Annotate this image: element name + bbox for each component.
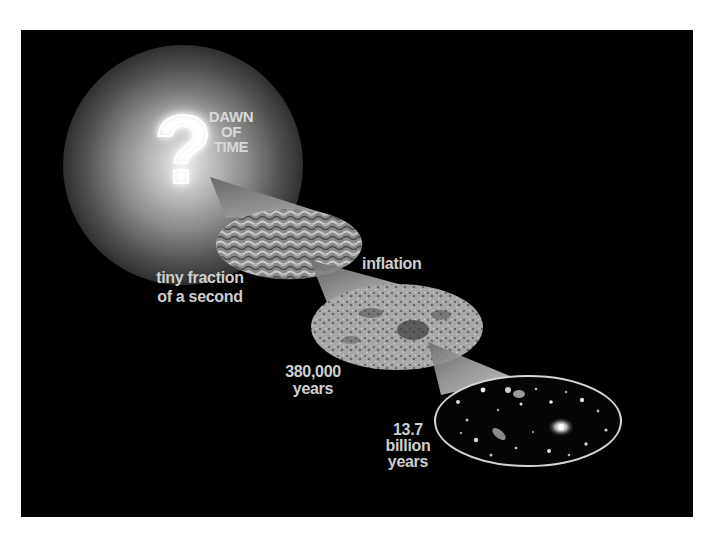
dawn-of-time-label: DAWN OF TIME (199, 109, 263, 154)
tiny-fraction-label: tiny fraction of a second (141, 268, 259, 306)
cosmic-timeline-panel: ? DAWN OF TIME tiny fraction of a second… (21, 30, 693, 517)
timeline-artwork (21, 30, 693, 517)
380000-years-label: 380,000 years (273, 363, 353, 397)
13-7-billion-years-label: 13.7 billion years (378, 422, 438, 470)
inflation-label: inflation (362, 254, 442, 273)
